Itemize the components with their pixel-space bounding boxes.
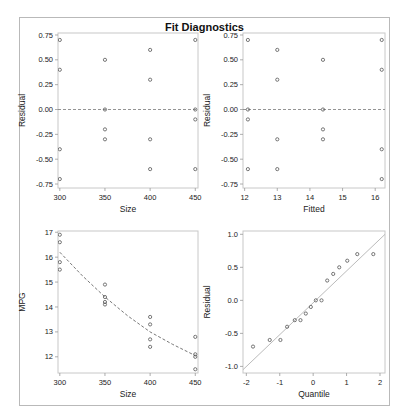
x-tick-label: 0 — [311, 378, 315, 387]
y-tick-label: -0.75 — [36, 180, 53, 189]
y-tick-label: -0.50 — [221, 155, 238, 164]
y-axis-label: Residual — [202, 94, 212, 127]
panel-residual-vs-size: 0.750.500.250.00-0.25-0.50-0.75300350400… — [17, 31, 202, 214]
y-tick-label: 0.50 — [223, 55, 238, 64]
y-tick-label: 0.75 — [38, 31, 53, 40]
plot-area — [58, 231, 198, 373]
x-tick-label: 450 — [189, 378, 202, 387]
y-tick-label: -0.50 — [36, 155, 53, 164]
x-axis-label: Size — [120, 389, 137, 399]
y-tick-label: 0.00 — [223, 105, 238, 114]
y-tick-label: 0.75 — [223, 31, 238, 40]
plot-area — [243, 33, 385, 188]
y-tick-label: 0.0 — [228, 296, 238, 305]
x-axis-label: Fitted — [303, 204, 325, 214]
y-tick-label: 0.5 — [228, 263, 238, 272]
x-tick-label: -2 — [243, 378, 250, 387]
x-tick-label: 350 — [99, 378, 112, 387]
y-tick-label: -0.5 — [225, 329, 238, 338]
x-tick-label: 400 — [144, 378, 157, 387]
y-tick-label: 15 — [45, 278, 53, 287]
y-axis-label: Residual — [17, 94, 27, 127]
y-tick-label: 12 — [45, 352, 53, 361]
x-tick-label: -1 — [276, 378, 283, 387]
x-tick-label: 16 — [371, 193, 379, 202]
y-tick-label: -0.25 — [221, 130, 238, 139]
y-tick-label: 0.00 — [38, 105, 53, 114]
x-tick-label: 350 — [99, 193, 112, 202]
x-axis-label: Size — [120, 204, 137, 214]
x-tick-label: 300 — [54, 378, 67, 387]
y-tick-label: 1.0 — [228, 230, 238, 239]
y-tick-label: -0.25 — [36, 130, 53, 139]
y-tick-label: 0.50 — [38, 55, 53, 64]
x-axis-label: Quantile — [298, 389, 330, 399]
y-tick-label: 17 — [45, 228, 53, 237]
x-tick-label: 15 — [338, 193, 346, 202]
y-tick-label: 16 — [45, 253, 53, 262]
x-tick-label: 1 — [344, 378, 348, 387]
x-tick-label: 400 — [144, 193, 157, 202]
y-tick-label: 14 — [45, 303, 53, 312]
y-tick-label: 13 — [45, 327, 53, 336]
x-tick-label: 450 — [189, 193, 202, 202]
y-tick-label: 0.25 — [223, 80, 238, 89]
diagnostics-panel-grid: 0.750.500.250.00-0.25-0.50-0.75300350400… — [0, 0, 406, 415]
plot-area — [58, 33, 198, 188]
x-tick-label: 2 — [378, 378, 382, 387]
panel-mpg-vs-size: 171615141312300350400450SizeMPG — [17, 228, 202, 399]
panel-residual-qq: 1.00.50.0-0.5-1.0-2-1012QuantileResidual — [202, 230, 385, 399]
x-tick-label: 12 — [240, 193, 248, 202]
x-tick-label: 13 — [273, 193, 281, 202]
y-tick-label: -1.0 — [225, 362, 238, 371]
y-tick-label: -0.75 — [221, 180, 238, 189]
x-tick-label: 300 — [54, 193, 67, 202]
y-axis-label: MPG — [17, 292, 27, 311]
panel-residual-vs-fitted: 0.750.500.250.00-0.25-0.50-0.75121314151… — [202, 31, 385, 214]
y-tick-label: 0.25 — [38, 80, 53, 89]
x-tick-label: 14 — [306, 193, 314, 202]
y-axis-label: Residual — [202, 285, 212, 318]
